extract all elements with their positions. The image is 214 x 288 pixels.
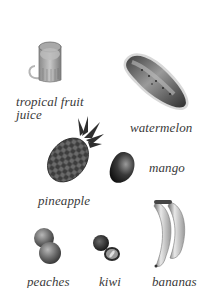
label-bananas: bananas [152, 275, 197, 288]
bananas-icon [152, 198, 194, 270]
label-watermelon: watermelon [130, 121, 192, 134]
label-pineapple: pineapple [38, 194, 90, 207]
label-juice-line2: juice [16, 108, 42, 121]
mango-icon [107, 150, 137, 186]
kiwi-icon [92, 234, 122, 264]
label-mango: mango [149, 161, 185, 174]
juice-jug-icon [27, 40, 69, 86]
peaches-icon [30, 226, 64, 266]
label-kiwi: kiwi [99, 275, 121, 288]
label-peaches: peaches [27, 275, 70, 288]
watermelon-icon [122, 50, 190, 112]
pineapple-icon [42, 114, 106, 186]
